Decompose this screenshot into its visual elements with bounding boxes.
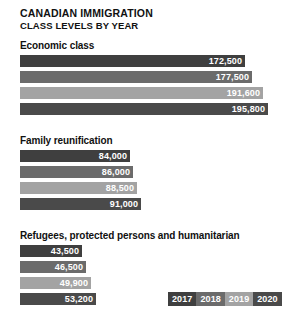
bar-refugees-2017: 43,500 bbox=[20, 245, 82, 257]
legend-item-2017: 2017 bbox=[168, 292, 196, 306]
bar-value-label: 177,500 bbox=[216, 71, 249, 83]
bar-value-label: 46,500 bbox=[55, 261, 83, 273]
group-label-family-reunification: Family reunification bbox=[20, 135, 285, 147]
bar-family-2017: 84,000 bbox=[20, 150, 130, 162]
bar-refugees-2018: 46,500 bbox=[20, 261, 86, 273]
bar-value-label: 195,800 bbox=[232, 103, 265, 115]
immigration-bar-chart: CANADIAN IMMIGRATION CLASS LEVELS BY YEA… bbox=[0, 0, 293, 329]
bar-value-label: 84,000 bbox=[99, 150, 127, 162]
bar-row: 84,000 bbox=[20, 150, 285, 162]
group-label-refugees: Refugees, protected persons and humanita… bbox=[20, 230, 285, 242]
chart-subtitle: CLASS LEVELS BY YEAR bbox=[20, 20, 153, 32]
bar-row: 191,600 bbox=[20, 87, 285, 99]
legend-item-2018: 2018 bbox=[196, 292, 224, 306]
bar-value-label: 91,000 bbox=[110, 198, 138, 210]
bar-row: 49,900 bbox=[20, 277, 285, 289]
bar-value-label: 172,500 bbox=[209, 55, 242, 67]
bar-row: 46,500 bbox=[20, 261, 285, 273]
bar-row: 195,800 bbox=[20, 103, 285, 115]
bar-refugees-2020: 53,200 bbox=[20, 293, 96, 305]
legend-label: 2018 bbox=[200, 292, 220, 306]
group-label-economic-class: Economic class bbox=[20, 40, 285, 52]
legend-label: 2017 bbox=[172, 292, 192, 306]
bar-value-label: 191,600 bbox=[227, 87, 260, 99]
bar-refugees-2019: 49,900 bbox=[20, 277, 91, 289]
bar-value-label: 86,000 bbox=[102, 166, 130, 178]
chart-title: CANADIAN IMMIGRATION bbox=[20, 7, 153, 20]
bar-value-label: 43,500 bbox=[51, 245, 79, 257]
bar-economic-2019: 191,600 bbox=[20, 87, 263, 99]
chart-title-block: CANADIAN IMMIGRATION CLASS LEVELS BY YEA… bbox=[20, 7, 153, 32]
bar-group-family-reunification: Family reunification 84,000 86,000 88,50… bbox=[20, 135, 285, 214]
bar-row: 43,500 bbox=[20, 245, 285, 257]
bar-family-2020: 91,000 bbox=[20, 198, 141, 210]
bar-group-economic-class: Economic class 172,500 177,500 191,600 1… bbox=[20, 40, 285, 119]
legend-label: 2020 bbox=[257, 292, 277, 306]
chart-legend: 2017 2018 2019 2020 bbox=[168, 292, 282, 306]
bar-value-label: 53,200 bbox=[65, 293, 93, 305]
bar-row: 172,500 bbox=[20, 55, 285, 67]
bar-value-label: 88,500 bbox=[106, 182, 134, 194]
legend-item-2019: 2019 bbox=[225, 292, 253, 306]
bar-economic-2018: 177,500 bbox=[20, 71, 252, 83]
bar-row: 88,500 bbox=[20, 182, 285, 194]
bar-row: 86,000 bbox=[20, 166, 285, 178]
bar-row: 91,000 bbox=[20, 198, 285, 210]
bar-value-label: 49,900 bbox=[60, 277, 88, 289]
legend-label: 2019 bbox=[229, 292, 249, 306]
bar-family-2019: 88,500 bbox=[20, 182, 137, 194]
bar-economic-2020: 195,800 bbox=[20, 103, 268, 115]
bar-row: 177,500 bbox=[20, 71, 285, 83]
legend-item-2020: 2020 bbox=[253, 292, 281, 306]
bar-family-2018: 86,000 bbox=[20, 166, 133, 178]
bar-economic-2017: 172,500 bbox=[20, 55, 245, 67]
